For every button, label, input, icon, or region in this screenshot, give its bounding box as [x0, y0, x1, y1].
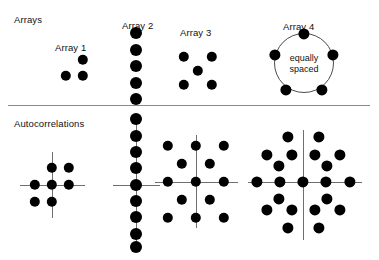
autocorr-4-point — [309, 204, 320, 215]
autocorr-4-point — [286, 204, 297, 215]
autocorr-4-point — [309, 149, 320, 160]
autocorr-4-point — [261, 149, 272, 160]
autocorr-4-point — [282, 222, 293, 233]
autocorr-4-point — [286, 149, 297, 160]
autocorr-4-point — [273, 160, 284, 171]
autocorr-4-point — [274, 176, 285, 187]
autocorr-4-point — [273, 193, 284, 204]
autocorr-4-group — [0, 0, 379, 260]
figure-canvas: Arrays Autocorrelations Array 1Array 2Ar… — [0, 0, 379, 260]
autocorr-4-point — [261, 204, 272, 215]
autocorr-4-point — [313, 131, 324, 142]
autocorr-4-point — [321, 160, 332, 171]
autocorr-4-point — [282, 131, 293, 142]
autocorr-4-point — [344, 176, 355, 187]
autocorr-4-point — [321, 193, 332, 204]
autocorr-4-point — [297, 176, 308, 187]
autocorr-4-point — [334, 204, 345, 215]
autocorr-4-point — [313, 222, 324, 233]
autocorr-4-point — [334, 149, 345, 160]
autocorr-4-point — [251, 176, 262, 187]
autocorr-4-point — [320, 176, 331, 187]
